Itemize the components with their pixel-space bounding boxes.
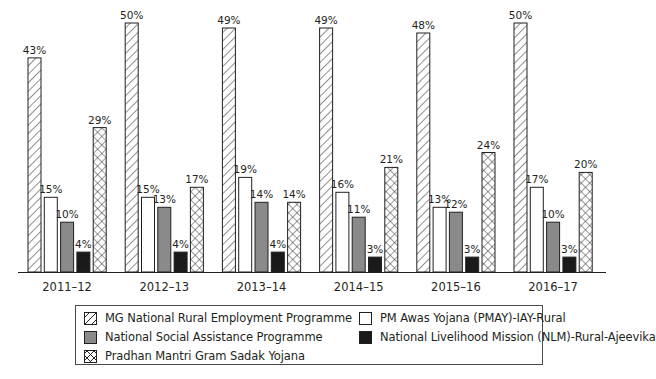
bar [466,257,479,272]
bar-series-group [28,23,592,272]
bar-value-label: 4% [269,238,286,250]
legend-label: MG National Rural Employment Programme [105,311,352,325]
bar-value-label: 20% [574,158,597,170]
bar-value-label: 21% [380,153,403,165]
bar [369,257,382,272]
legend-label: National Livelihood Mission (NLM)-Rural-… [380,330,656,344]
bar-value-label: 12% [444,198,467,210]
x-tick-label: 2012–13 [139,280,189,294]
x-tick-label: 2014–15 [334,280,384,294]
legend-item-nlm: National Livelihood Mission (NLM)-Rural-… [359,329,656,345]
bar [482,153,495,273]
bar [547,222,560,272]
legend-label: Pradhan Mantri Gram Sadak Yojana [105,349,305,363]
bar-value-label: 14% [282,188,305,200]
bar [385,167,398,272]
bar [125,23,138,272]
bar [222,28,235,272]
bar-value-label: 4% [172,238,189,250]
bar [514,23,527,272]
legend-label: National Social Assistance Programme [105,330,322,344]
cross-hatch-swatch-icon [84,350,97,363]
bar [579,172,592,272]
bar-value-label: 3% [367,243,384,255]
bar [271,252,284,272]
bar-value-label: 48% [412,19,435,31]
bar-value-label: 14% [250,188,273,200]
bar [449,212,462,272]
bar [93,128,106,272]
white-swatch-icon [359,312,372,325]
bar [142,197,155,272]
bar-value-label: 29% [88,114,111,126]
bar [255,202,268,272]
bar-value-label: 24% [477,139,500,151]
bar-value-label: 50% [509,9,532,21]
bar-value-label: 3% [561,243,578,255]
bar [352,217,365,272]
x-axis-tick-labels: 2011–122012–132013–142014–152015–162016–… [42,280,578,294]
bar-value-label: 17% [525,173,548,185]
legend-item-pmay: PM Awas Yojana (PMAY)-IAY-Rural [359,310,566,326]
bar-value-label: 3% [464,243,481,255]
legend: MG National Rural Employment Programme P… [75,305,543,365]
bar-value-label: 15% [39,183,62,195]
value-labels: 43%15%10%4%29%50%15%13%4%17%49%19%14%4%1… [23,9,598,255]
bar-value-label: 11% [347,203,370,215]
x-tick-label: 2011–12 [42,280,92,294]
bar-value-label: 17% [185,173,208,185]
legend-item-nsap: National Social Assistance Programme [84,329,322,345]
x-tick-label: 2016–17 [528,280,578,294]
bar [158,207,171,272]
bar-value-label: 10% [55,208,78,220]
bar-value-label: 43% [23,44,46,56]
bar-value-label: 13% [153,193,176,205]
x-tick-label: 2015–16 [431,280,481,294]
bar [190,187,203,272]
diagonal-hatch-swatch-icon [84,312,97,325]
bar-value-label: 19% [234,163,257,175]
gray-swatch-icon [84,331,97,344]
bar [320,28,333,272]
bar-value-label: 10% [541,208,564,220]
bar-value-label: 49% [314,14,337,26]
bar [77,252,90,272]
bar [61,222,74,272]
bar [174,252,187,272]
bar-value-label: 49% [217,14,240,26]
black-swatch-icon [359,331,372,344]
x-tick-label: 2013–14 [237,280,287,294]
legend-label: PM Awas Yojana (PMAY)-IAY-Rural [380,311,566,325]
bar-value-label: 50% [120,9,143,21]
legend-item-mgnrega: MG National Rural Employment Programme [84,310,352,326]
bar [433,207,446,272]
bar [288,202,301,272]
legend-item-pmgsy: Pradhan Mantri Gram Sadak Yojana [84,348,305,364]
bar-value-label: 4% [75,238,92,250]
bar [417,33,430,272]
bar-value-label: 16% [331,178,354,190]
bar [563,257,576,272]
bar [530,187,543,272]
bar [28,58,41,272]
